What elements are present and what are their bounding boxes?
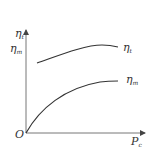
curve-eta-t	[37, 45, 118, 63]
curve-label-eta-t: ηt	[123, 41, 133, 54]
origin-label: O	[15, 128, 24, 141]
y-axis-label: ηt	[15, 27, 25, 40]
curve-label-eta-m: ηm	[126, 73, 139, 86]
y-tick-label-eta-m: ηm	[10, 42, 23, 55]
efficiency-diagram: ηt ηm ηt ηm Pc O	[0, 0, 153, 162]
curve-eta-m	[26, 81, 118, 133]
x-axis-label: Pc	[130, 135, 142, 148]
